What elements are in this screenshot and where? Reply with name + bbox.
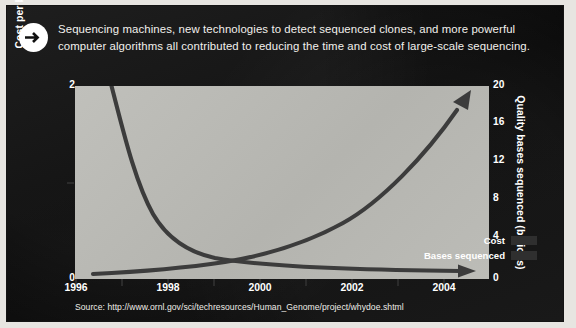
- series-cost-arrowhead: [458, 265, 476, 278]
- y-axis-left-label: Cost per base ($): [11, 0, 27, 102]
- header-callout: Sequencing machines, new technologies to…: [19, 20, 551, 66]
- y-axis-right-tick-20: 20: [493, 80, 517, 90]
- figure-panel: Sequencing machines, new technologies to…: [7, 6, 563, 321]
- source-caption: Source: http://www.ornl.gov/sci/techreso…: [75, 302, 404, 312]
- x-axis-tick-2000: 2000: [240, 282, 280, 293]
- y-axis-right-tick-12: 12: [493, 155, 517, 165]
- legend-item-bases-sequenced: Bases sequenced: [367, 249, 537, 262]
- chart-container: Cost per base ($) Quality bases sequence…: [19, 74, 553, 319]
- x-axis-tick-mark: [305, 279, 307, 286]
- x-axis-tick-mark: [121, 279, 123, 286]
- x-axis-tick-mark: [213, 279, 215, 286]
- legend-label: Cost: [484, 235, 505, 246]
- legend-swatch-cost: [511, 236, 537, 245]
- plot-area: Cost Bases sequenced: [75, 86, 489, 279]
- x-axis-tick-2002: 2002: [332, 282, 372, 293]
- chart-legend: Cost Bases sequenced: [367, 234, 537, 264]
- y-axis-right-tick-0: 0: [493, 273, 517, 283]
- x-axis-tick-mark: [397, 279, 399, 286]
- x-axis-tick-1998: 1998: [148, 282, 188, 293]
- x-axis-tick-1996: 1996: [56, 282, 96, 293]
- y-axis-left-tick-2: 2: [51, 80, 75, 90]
- legend-swatch-bases: [511, 251, 537, 260]
- y-axis-right-tick-8: 8: [493, 193, 517, 203]
- legend-item-cost: Cost: [367, 234, 537, 247]
- figure-root: Sequencing machines, new technologies to…: [0, 0, 576, 328]
- y-axis-left-minor-tick: [67, 182, 74, 184]
- series-bases-arrowhead: [453, 90, 471, 110]
- header-text: Sequencing machines, new technologies to…: [58, 20, 530, 54]
- x-axis-tick-2004: 2004: [424, 282, 464, 293]
- legend-label: Bases sequenced: [424, 250, 505, 261]
- y-axis-right-tick-16: 16: [493, 117, 517, 127]
